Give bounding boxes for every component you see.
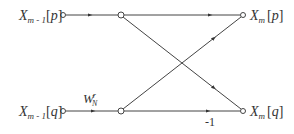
butterfly-diagram: Xm - 1[p] Xm - 1[q] Xm[p] Xm[q] WrN -1: [0, 0, 294, 134]
label-input-q: Xm - 1[q]: [18, 104, 62, 121]
node-output-q: [241, 109, 246, 114]
cross-branches: [123, 17, 241, 109]
node-inner-q: [118, 108, 124, 114]
label-output-q: Xm[q]: [249, 104, 283, 121]
label-output-p: Xm[p]: [249, 8, 283, 25]
gain-label: -1: [205, 115, 215, 129]
twiddle-factor-label: WrN: [83, 91, 98, 108]
node-output-p: [241, 13, 246, 18]
node-inner-p: [118, 12, 124, 18]
label-input-p: Xm - 1[p]: [18, 8, 62, 25]
